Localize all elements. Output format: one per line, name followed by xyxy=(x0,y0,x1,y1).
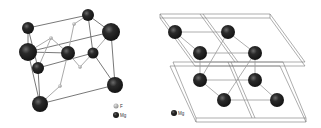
left-structure: F Mg xyxy=(19,9,127,118)
right-legend: Mg xyxy=(171,110,185,116)
right-structure: Mg xyxy=(160,14,306,122)
legend-label-f: F xyxy=(120,104,123,109)
mg-legend-icon xyxy=(171,110,177,116)
left-legend: F Mg xyxy=(113,104,127,119)
legend-label-mg: Mg xyxy=(120,113,127,118)
f-legend-icon xyxy=(114,104,119,109)
legend-label-mg-right: Mg xyxy=(178,111,185,116)
crystal-structure-figure: F Mg xyxy=(0,0,321,128)
cell-edges xyxy=(28,15,115,104)
mg-legend-icon xyxy=(113,112,119,118)
